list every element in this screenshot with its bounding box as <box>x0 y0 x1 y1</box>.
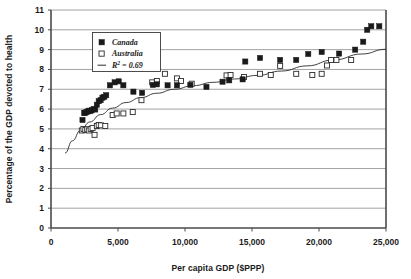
x-tick-label-5000: 5,000 <box>107 237 129 247</box>
x-tick-label-0: 0 <box>49 237 54 247</box>
y-tick-label-7: 7 <box>39 84 44 94</box>
y-tick-labels-group: 01234567891011 <box>35 5 45 233</box>
y-tick-label-2: 2 <box>39 183 44 193</box>
data-point-canada <box>240 77 245 82</box>
data-point-canada <box>243 59 248 64</box>
data-point-canada <box>131 89 136 94</box>
data-point-canada <box>306 51 311 56</box>
data-point-canada <box>107 83 112 88</box>
legend-marker-canada <box>99 40 104 45</box>
data-point-australia <box>258 71 263 76</box>
data-point-canada <box>140 90 145 95</box>
data-point-australia <box>268 73 273 78</box>
data-point-canada <box>319 49 324 54</box>
data-point-canada <box>80 117 85 122</box>
y-tick-label-6: 6 <box>39 104 44 114</box>
data-point-australia <box>278 63 283 68</box>
data-point-australia <box>329 57 334 62</box>
y-tick-label-0: 0 <box>39 223 44 233</box>
x-tick-label-15000: 15,000 <box>239 237 265 247</box>
data-point-canada <box>154 82 159 87</box>
data-point-canada <box>377 24 382 29</box>
legend-r2-suffix: = 0.69 <box>120 61 143 70</box>
legend-label-australia: Australia <box>111 49 143 58</box>
data-point-australia <box>319 71 324 76</box>
data-point-canada <box>165 83 170 88</box>
data-point-canada <box>121 83 126 88</box>
legend-marker-australia <box>99 51 104 56</box>
data-point-canada <box>337 51 342 56</box>
data-point-canada <box>116 79 121 84</box>
y-tick-label-5: 5 <box>39 124 44 134</box>
legend-label-r2: R2 = 0.69 <box>111 60 143 70</box>
data-point-australia <box>325 63 330 68</box>
data-point-australia <box>121 111 126 116</box>
chart-legend: Canada Australia R2 = 0.69 <box>93 33 161 72</box>
y-axis-label: Percentage of the GDP devoted to health <box>4 35 14 204</box>
data-point-australia <box>139 98 144 103</box>
y-tick-label-1: 1 <box>39 203 44 213</box>
data-point-australia <box>228 73 233 78</box>
legend-label-canada: Canada <box>112 38 138 47</box>
x-axis-label: Per capita GDP ($PPP) <box>171 263 264 273</box>
data-point-canada <box>369 24 374 29</box>
x-tick-label-10000: 10,000 <box>172 237 198 247</box>
data-point-canada <box>227 78 232 83</box>
data-point-australia <box>114 111 119 116</box>
y-tick-label-9: 9 <box>39 45 44 55</box>
y-tick-label-10: 10 <box>35 25 45 35</box>
y-tick-label-4: 4 <box>39 144 44 154</box>
data-point-canada <box>294 57 299 62</box>
data-point-australia <box>162 71 167 76</box>
y-tick-label-11: 11 <box>35 5 44 15</box>
data-point-australia <box>349 57 354 62</box>
x-tick-label-25000: 25,000 <box>373 237 399 247</box>
data-point-canada <box>188 82 193 87</box>
y-tick-label-3: 3 <box>39 164 44 174</box>
data-point-australia <box>310 73 315 78</box>
data-point-canada <box>93 107 98 112</box>
data-point-canada <box>104 93 109 98</box>
x-tick-label-20000: 20,000 <box>306 237 332 247</box>
data-point-australia <box>103 123 108 128</box>
data-point-canada <box>220 79 225 84</box>
data-point-canada <box>361 39 366 44</box>
y-tick-label-8: 8 <box>39 64 44 74</box>
data-point-australia <box>334 57 339 62</box>
data-point-canada <box>174 83 179 88</box>
chart-container: 01234567891011 05,00010,00015,00020,0002… <box>0 0 411 279</box>
x-tick-labels-group: 05,00010,00015,00020,00025,000 <box>49 237 400 247</box>
data-point-australia <box>294 71 299 76</box>
scatter-chart: 01234567891011 05,00010,00015,00020,0002… <box>0 0 411 279</box>
data-point-australia <box>130 110 135 115</box>
data-point-canada <box>257 55 262 60</box>
data-point-canada <box>204 84 209 89</box>
data-point-australia <box>92 132 97 137</box>
data-point-canada <box>278 57 283 62</box>
data-point-canada <box>353 47 358 52</box>
